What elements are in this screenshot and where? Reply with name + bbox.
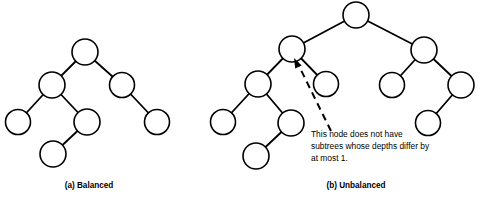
callout-text-block: This node does not havesubtrees whose de…	[311, 129, 430, 163]
b-left-right	[314, 72, 339, 97]
callout-line-2: subtrees whose depths differ by	[311, 141, 430, 151]
caption-unbalanced: (b) Unbalanced	[326, 181, 385, 190]
b-left-left	[245, 71, 271, 97]
b-right	[411, 37, 437, 63]
a-left	[39, 72, 65, 98]
b-right-left	[380, 73, 405, 98]
caption-balanced: (a) Balanced	[65, 181, 114, 190]
a-right	[110, 73, 135, 98]
binary-tree-diagram: (a) Balanced This node does not havesubt…	[0, 0, 479, 201]
a-deep	[40, 141, 66, 167]
callout-line-3: at most 1.	[311, 153, 348, 163]
panel-unbalanced: This node does not havesubtrees whose de…	[211, 2, 475, 190]
figure-container: (a) Balanced This node does not havesubt…	[0, 0, 479, 201]
panel-balanced: (a) Balanced	[6, 39, 170, 190]
b-left-left-right	[278, 110, 304, 136]
b-right-right-left	[416, 111, 441, 136]
b-right-right	[448, 72, 474, 98]
a-left-left	[6, 110, 31, 135]
a-root	[72, 39, 98, 65]
b-root	[343, 2, 369, 28]
a-left-right	[74, 109, 100, 135]
b-left-left-left	[211, 110, 236, 135]
b-left	[279, 36, 305, 62]
b-deep	[243, 143, 269, 169]
callout-line-1: This node does not have	[311, 129, 403, 139]
balanced-tree-edges	[18, 52, 157, 154]
balanced-tree-nodes	[6, 39, 170, 167]
a-right-right	[145, 110, 170, 135]
